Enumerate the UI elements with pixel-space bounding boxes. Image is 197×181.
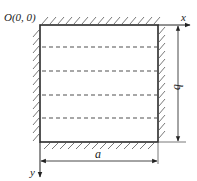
plate-outline [40, 25, 158, 142]
dashed-lines [42, 47, 157, 118]
height-label: b [171, 84, 185, 90]
left-boundary-hatch [33, 30, 39, 141]
origin-label: O(0, 0) [4, 11, 36, 24]
top-boundary-hatch [42, 17, 160, 24]
width-label: a [95, 147, 101, 161]
x-axis-label: x [180, 11, 186, 23]
y-axis-label: y [29, 166, 35, 178]
right-boundary-hatch [159, 27, 165, 138]
plate-diagram: O(0, 0) x y a b [0, 0, 197, 181]
